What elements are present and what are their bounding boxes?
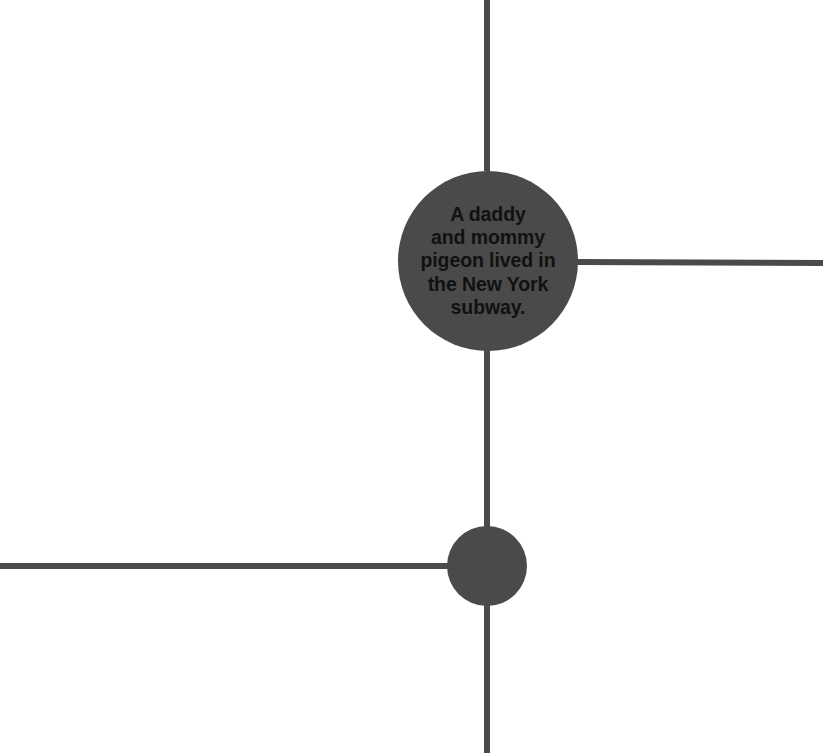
edge-right-stub[interactable] bbox=[576, 262, 823, 263]
secondary-node[interactable] bbox=[447, 526, 527, 606]
diagram-canvas: A daddy and mommy pigeon lived in the Ne… bbox=[0, 0, 823, 753]
edge-layer bbox=[0, 0, 823, 753]
main-story-node[interactable] bbox=[398, 171, 578, 351]
diagram-svg bbox=[0, 0, 823, 753]
